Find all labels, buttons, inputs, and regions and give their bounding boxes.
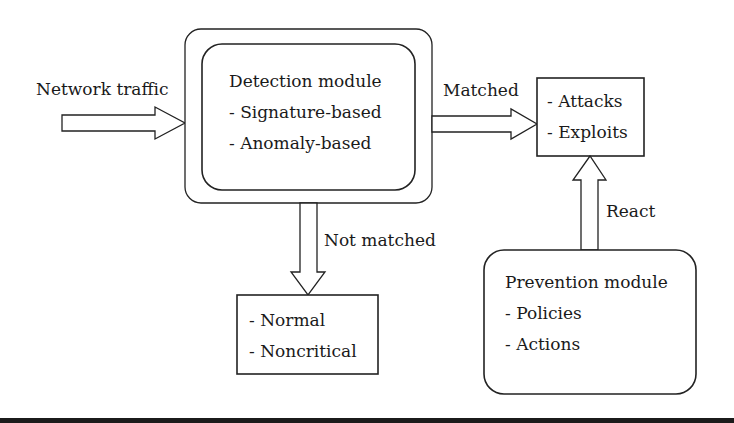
detection-module-title: Detection module — [229, 71, 382, 91]
prevention-item-actions: - Actions — [505, 334, 580, 354]
not-matched-arrow — [291, 203, 325, 295]
detection-item-signature: - Signature-based — [229, 102, 382, 122]
react-label: React — [606, 201, 656, 221]
bottom-divider-bar — [0, 418, 734, 423]
detection-item-anomaly: - Anomaly-based — [229, 133, 371, 153]
matched-label: Matched — [443, 80, 519, 100]
matched-arrow — [432, 109, 537, 139]
diagram-canvas: Network traffic Detection module - Signa… — [0, 0, 734, 423]
normal-item: - Normal — [249, 310, 325, 330]
exploits-item: - Exploits — [547, 122, 628, 142]
network-traffic-label: Network traffic — [36, 79, 169, 99]
attacks-box — [537, 78, 644, 156]
prevention-item-policies: - Policies — [505, 303, 582, 323]
ids-ips-diagram: Network traffic Detection module - Signa… — [0, 0, 734, 423]
react-arrow — [573, 156, 606, 250]
noncritical-item: - Noncritical — [249, 341, 357, 361]
prevention-module-title: Prevention module — [505, 272, 668, 292]
normal-box — [237, 295, 378, 374]
network-traffic-arrow — [62, 107, 185, 139]
attacks-item: - Attacks — [547, 91, 622, 111]
not-matched-label: Not matched — [324, 230, 436, 250]
